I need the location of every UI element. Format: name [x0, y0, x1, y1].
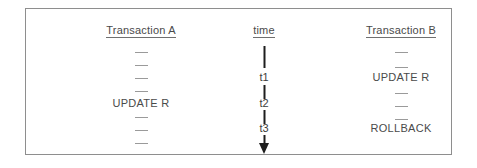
placeholder-dash-icon: [395, 52, 408, 53]
list-item: [56, 58, 226, 71]
column-heading-time-label: time: [253, 24, 275, 38]
placeholder-dash-icon: [135, 91, 148, 92]
column-heading-time: time: [224, 24, 304, 36]
statement-update-r-b: UPDATE R: [316, 71, 477, 84]
arrow-down-icon: [259, 143, 269, 154]
placeholder-dash-icon: [135, 117, 148, 118]
placeholder-dash-icon: [135, 78, 148, 79]
time-axis-line-segment: [264, 46, 266, 68]
transaction-timeline-figure: Transaction A UPDATE R: [0, 0, 477, 168]
column-heading-transaction-b-label: Transaction B: [366, 24, 436, 38]
time-tick-t2: t2: [224, 97, 304, 110]
list-item: [316, 45, 477, 58]
placeholder-dash-icon: [395, 67, 408, 68]
column-heading-transaction-b: Transaction B: [316, 24, 477, 36]
list-item: [56, 136, 226, 149]
list-item: [316, 86, 477, 99]
placeholder-dash-icon: [395, 106, 408, 107]
placeholder-dash-icon: [395, 93, 408, 94]
figure-frame: Transaction A UPDATE R: [25, 8, 452, 155]
time-tick-t3: t3: [224, 122, 304, 135]
column-heading-transaction-a: Transaction A: [56, 24, 226, 36]
placeholder-dash-icon: [395, 119, 408, 120]
column-heading-transaction-a-label: Transaction A: [106, 24, 175, 38]
placeholder-dash-icon: [135, 143, 148, 144]
placeholder-dash-icon: [135, 52, 148, 53]
list-item: [316, 99, 477, 112]
list-item: [56, 123, 226, 136]
placeholder-dash-icon: [135, 65, 148, 66]
statement-update-r-a: UPDATE R: [56, 97, 226, 110]
time-tick-t1: t1: [224, 71, 304, 84]
placeholder-dash-icon: [135, 130, 148, 131]
statement-rollback-b: ROLLBACK: [316, 122, 477, 135]
list-item: [56, 71, 226, 84]
list-item: [56, 45, 226, 58]
list-item: [56, 110, 226, 123]
list-item: [56, 84, 226, 97]
